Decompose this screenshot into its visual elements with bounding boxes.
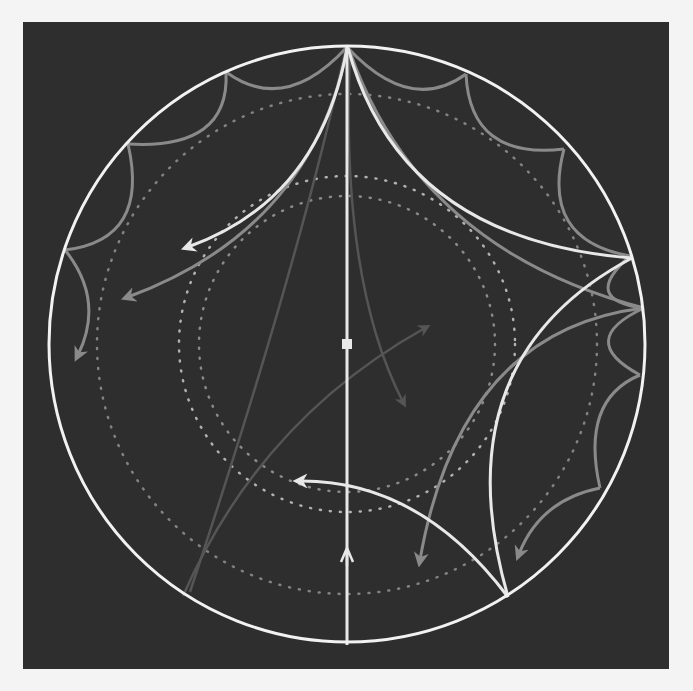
poincare-disk-diagram <box>0 0 693 691</box>
center-marker <box>342 339 352 349</box>
